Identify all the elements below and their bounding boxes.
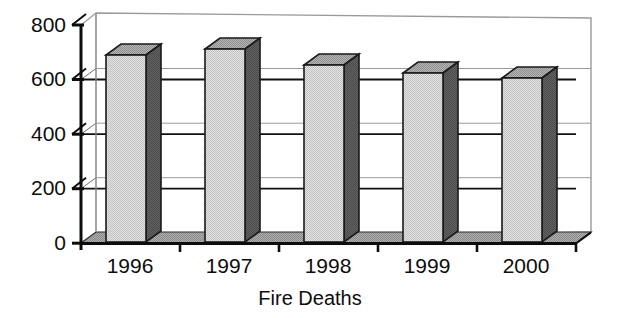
x-tick-label-1999: 1999 [404,254,451,277]
chart-container: 800 600 400 200 0 1996 1997 1998 1999 20… [0,0,620,318]
bar-1996[interactable] [106,44,161,242]
bar-side-face [344,54,359,242]
x-tick-label-1996: 1996 [107,254,154,277]
bar-front-face [403,73,443,242]
x-tick-label-1998: 1998 [305,254,352,277]
y-tick-label-600: 600 [31,67,66,90]
bar-1998[interactable] [304,54,359,242]
bar-chart-3d: 800 600 400 200 0 1996 1997 1998 1999 20… [0,0,620,318]
bar-2000[interactable] [502,67,557,242]
x-tick-label-2000: 2000 [503,254,550,277]
bar-side-face [542,67,557,242]
bar-side-face [245,38,260,242]
bar-front-face [205,49,245,242]
bar-side-face [146,44,161,242]
y-tick-label-0: 0 [54,231,66,254]
y-tick-label-800: 800 [31,13,66,36]
bar-side-face [443,62,458,242]
x-tick-label-1997: 1997 [206,254,253,277]
x-axis-title: Fire Deaths [258,287,361,309]
bar-1999[interactable] [403,62,458,242]
bar-front-face [304,65,344,242]
y-tick-label-400: 400 [31,122,66,145]
bar-front-face [106,55,146,242]
bar-front-face [502,78,542,242]
bar-1997[interactable] [205,38,260,242]
y-tick-label-200: 200 [31,176,66,199]
